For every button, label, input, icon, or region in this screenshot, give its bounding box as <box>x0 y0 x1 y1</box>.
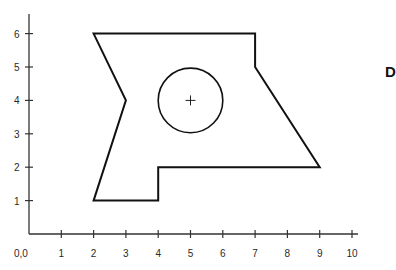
y-tick-label: 3 <box>14 129 20 140</box>
x-tick-label: 4 <box>155 248 161 259</box>
y-tick-label: 5 <box>14 62 20 73</box>
x-tick-label: 6 <box>220 248 226 259</box>
y-tick-label: 1 <box>14 196 20 207</box>
y-axis-ticks: 123456 <box>14 29 33 207</box>
x-tick-label: 8 <box>285 248 291 259</box>
x-tick-label: 5 <box>188 248 194 259</box>
y-tick-label: 4 <box>14 95 20 106</box>
origin-label: 0,0 <box>14 248 28 259</box>
x-tick-label: 9 <box>317 248 323 259</box>
x-tick-label: 10 <box>346 248 358 259</box>
figure-label: D <box>385 63 396 80</box>
circle-center-marker-icon <box>186 95 196 105</box>
polygon-shape <box>94 34 320 201</box>
y-tick-label: 2 <box>14 162 20 173</box>
y-tick-label: 6 <box>14 29 20 40</box>
x-tick-label: 7 <box>252 248 258 259</box>
x-tick-label: 3 <box>123 248 129 259</box>
diagram-canvas: 12345678910 123456 0,0 <box>0 0 396 270</box>
coordinate-diagram: 12345678910 123456 0,0 D <box>0 0 396 270</box>
x-tick-label: 2 <box>91 248 97 259</box>
x-tick-label: 1 <box>59 248 65 259</box>
